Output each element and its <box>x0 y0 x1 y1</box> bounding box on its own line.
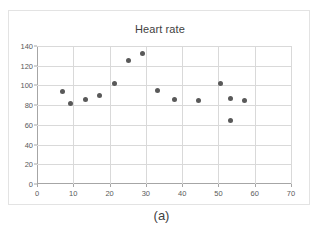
chart-frame: Heart rate 02040608010012014001020304050… <box>8 10 310 205</box>
x-tick-mark <box>73 184 74 187</box>
data-point <box>172 97 177 102</box>
y-gridline <box>37 85 291 86</box>
chart-title: Heart rate <box>9 23 311 35</box>
y-gridline <box>37 125 291 126</box>
data-point <box>242 98 247 103</box>
y-tick-label: 120 <box>20 61 33 70</box>
data-point <box>60 89 65 94</box>
data-point <box>140 51 145 56</box>
y-tick-mark <box>34 105 37 106</box>
x-tick-mark <box>291 184 292 187</box>
x-gridline <box>255 46 256 184</box>
figure-container: Heart rate 02040608010012014001020304050… <box>0 0 323 236</box>
x-tick-mark <box>255 184 256 187</box>
x-tick-label: 10 <box>69 189 77 198</box>
y-tick-mark <box>34 144 37 145</box>
x-tick-label: 40 <box>178 189 186 198</box>
y-gridline <box>37 105 291 106</box>
x-gridline <box>218 46 219 184</box>
x-gridline <box>291 46 292 184</box>
y-tick-label: 40 <box>25 140 33 149</box>
x-tick-label: 30 <box>142 189 150 198</box>
x-gridline <box>110 46 111 184</box>
data-point <box>68 101 73 106</box>
data-point <box>97 93 102 98</box>
y-gridline <box>37 145 291 146</box>
y-gridline <box>37 46 291 47</box>
data-point <box>196 98 201 103</box>
x-tick-mark <box>37 184 38 187</box>
y-tick-label: 100 <box>20 81 33 90</box>
y-tick-mark <box>34 46 37 47</box>
figure-caption: (a) <box>0 208 323 223</box>
x-tick-label: 20 <box>105 189 113 198</box>
y-tick-label: 20 <box>25 160 33 169</box>
x-tick-mark <box>182 184 183 187</box>
y-tick-label: 0 <box>29 180 33 189</box>
x-axis-line <box>37 183 291 184</box>
y-tick-mark <box>34 124 37 125</box>
y-tick-mark <box>34 65 37 66</box>
x-tick-label: 70 <box>287 189 295 198</box>
x-tick-mark <box>218 184 219 187</box>
y-gridline <box>37 164 291 165</box>
x-gridline <box>73 46 74 184</box>
x-tick-mark <box>146 184 147 187</box>
x-tick-label: 60 <box>251 189 259 198</box>
y-tick-label: 80 <box>25 101 33 110</box>
x-tick-label: 50 <box>214 189 222 198</box>
data-point <box>83 97 88 102</box>
y-tick-mark <box>34 164 37 165</box>
y-gridline <box>37 66 291 67</box>
x-gridline <box>146 46 147 184</box>
plot-area: 020406080100120140010203040506070 <box>37 46 291 184</box>
y-tick-mark <box>34 85 37 86</box>
y-tick-label: 60 <box>25 120 33 129</box>
x-tick-label: 0 <box>35 189 39 198</box>
y-tick-label: 140 <box>20 42 33 51</box>
data-point <box>155 88 160 93</box>
data-point <box>112 81 117 86</box>
data-point <box>228 96 233 101</box>
x-gridline <box>182 46 183 184</box>
x-tick-mark <box>110 184 111 187</box>
data-point <box>228 118 233 123</box>
data-point <box>126 58 131 63</box>
